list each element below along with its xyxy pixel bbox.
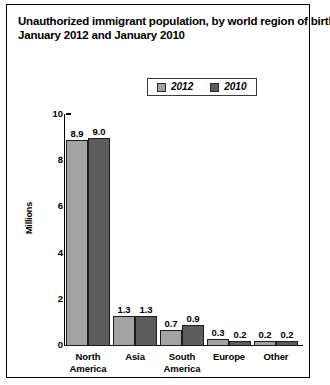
bar-group-other: 0.2 0.2: [253, 115, 299, 346]
bar-value-south-america-2012: 0.7: [164, 319, 177, 329]
x-tick-label-europe: Europe: [206, 351, 252, 363]
y-tick-label-6: 6: [58, 200, 63, 212]
x-tick-label-asia: Asia: [112, 351, 158, 363]
bar-other-2012: 0.2: [254, 341, 276, 346]
bar-europe-2012: 0.3: [207, 339, 229, 346]
bar-north-america-2010: 9.0: [88, 138, 110, 346]
x-tick-label-south-america: South America: [159, 351, 205, 374]
bar-value-north-america-2010: 9.0: [92, 127, 105, 137]
x-tick-label-other-line-1: Other: [253, 351, 299, 363]
x-tick-label-north-america: North America: [65, 351, 111, 374]
bar-north-america-2012: 8.9: [66, 140, 88, 346]
y-tick-label-8: 8: [58, 154, 63, 166]
bar-europe-2010: 0.2: [229, 341, 251, 346]
bar-value-asia-2012: 1.3: [117, 305, 130, 315]
bar-value-europe-2010: 0.2: [233, 330, 246, 340]
x-tick-label-north-america-line-1: North: [65, 351, 111, 363]
bar-south-america-2012: 0.7: [160, 330, 182, 346]
bar-value-asia-2010: 1.3: [139, 305, 152, 315]
plot-area: Millions 10 8 6 4 2 0 8.: [7, 5, 311, 379]
x-tick-label-europe-line-1: Europe: [206, 351, 252, 363]
x-tick-label-other: Other: [253, 351, 299, 363]
bar-group-south-america: 0.7 0.9: [159, 115, 205, 346]
bar-value-north-america-2012: 8.9: [70, 129, 83, 139]
bar-other-2010: 0.2: [276, 341, 298, 346]
y-axis-label: Millions: [24, 188, 34, 248]
bar-value-europe-2012: 0.3: [211, 328, 224, 338]
y-tick-label-0: 0: [58, 339, 63, 351]
bar-value-south-america-2010: 0.9: [186, 314, 199, 324]
x-tick-label-north-america-line-2: America: [65, 363, 111, 375]
bar-group-europe: 0.3 0.2: [206, 115, 252, 346]
bar-south-america-2010: 0.9: [182, 325, 204, 346]
x-tick-label-asia-line-1: Asia: [112, 351, 158, 363]
bar-value-other-2010: 0.2: [280, 330, 293, 340]
x-tick-label-south-america-line-2: America: [159, 363, 205, 375]
x-tick-label-south-america-line-1: South: [159, 351, 205, 363]
chart-figure: Unauthorized immigrant population, by wo…: [6, 4, 310, 378]
bar-asia-2010: 1.3: [135, 316, 157, 346]
bar-value-other-2012: 0.2: [258, 330, 271, 340]
bar-group-asia: 1.3 1.3: [112, 115, 158, 346]
y-tick-label-2: 2: [58, 293, 63, 305]
bar-asia-2012: 1.3: [113, 316, 135, 346]
y-tick-label-4: 4: [58, 247, 63, 259]
y-tick-label-10: 10: [52, 108, 63, 120]
bar-group-north-america: 8.9 9.0: [65, 115, 111, 346]
